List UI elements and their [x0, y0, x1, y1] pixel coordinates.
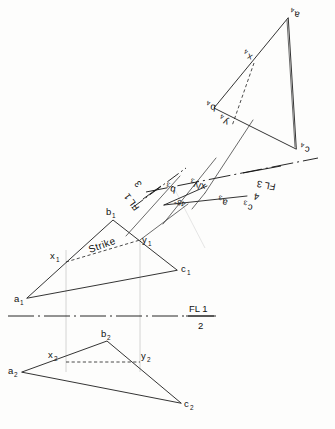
label-a4-index: 4	[290, 7, 295, 14]
label-c4-index: 4	[300, 142, 305, 149]
view1-projector-to-view3	[140, 204, 188, 240]
fold-line-3-4-fraction-bar	[243, 166, 281, 173]
view4-edge-a4-c4	[287, 20, 295, 147]
label-x1-letter: x	[50, 250, 55, 261]
label-b1-index: 1	[112, 212, 116, 219]
label-y1: y 1	[142, 234, 152, 247]
label-y2-letter: y	[141, 350, 146, 361]
label-c1-letter: c	[181, 263, 186, 274]
fold-line-1-3-fraction-bar	[143, 186, 161, 199]
angle-45-label: 45°	[173, 197, 187, 209]
strike-label: Strike	[87, 235, 117, 255]
label-x2-letter: x	[48, 349, 53, 360]
fold-line-3-4-label: FL 3 4	[253, 178, 277, 205]
label-c1-index: 1	[187, 269, 191, 276]
label-b1-letter: b	[106, 206, 111, 217]
label-y1-letter: y	[142, 234, 147, 245]
label-b4: b 4	[205, 100, 217, 114]
label-a3-index: 3	[218, 194, 223, 202]
label-x2: x 2	[48, 349, 58, 362]
label-c3-index: 3	[243, 199, 248, 207]
strike-label-group: Strike	[87, 235, 117, 255]
label-b1: b 1	[106, 206, 116, 219]
label-b2: b 2	[101, 328, 111, 341]
label-a4: a 4	[289, 7, 301, 21]
projector-lines	[66, 190, 205, 372]
label-y4-index: 4	[219, 113, 225, 121]
geometry-svg: FL 1 2 FL 1 3 FL 3 4 Strike 45° a 1	[0, 0, 335, 429]
fold-line-1-2-lower-label: 2	[198, 320, 203, 331]
label-b2-index: 2	[107, 334, 111, 341]
fold-line-1-3-upper-label: FL 1	[121, 191, 141, 213]
label-x1-index: 1	[56, 256, 60, 263]
label-xy3-index: 3	[190, 177, 195, 185]
fold-line-1-2-upper-label: FL 1	[189, 303, 208, 314]
label-x2-index: 2	[54, 355, 58, 362]
label-a2-index: 2	[14, 371, 18, 378]
label-c3: c 3	[242, 199, 254, 214]
label-c2-letter: c	[184, 398, 189, 409]
label-y2-index: 2	[147, 356, 151, 363]
label-a3: a 3	[217, 194, 229, 209]
label-b3-index: 3	[166, 181, 171, 189]
label-c2: c 2	[184, 398, 194, 411]
label-y1-index: 1	[148, 240, 152, 247]
view1-point-labels: a 1 b 1 c 1 x 1 y 1	[14, 206, 191, 306]
view3-to-view4-projector	[205, 120, 253, 193]
view2-point-labels: a 2 b 2 c 2 x 2 y 2	[8, 328, 194, 411]
fold-line-1-3-label: FL 1 3	[119, 179, 154, 213]
label-b3: b 3	[165, 181, 177, 196]
label-b4-index: 4	[206, 100, 211, 107]
fold-line-1-2-label: FL 1 2	[189, 303, 208, 331]
fold-line-1-3-lower-label: 3	[132, 179, 144, 190]
fold-line-3-4-upper-label: FL 3	[256, 178, 276, 192]
view2-triangle	[22, 341, 181, 403]
label-a1: a 1	[14, 293, 24, 306]
label-a2: a 2	[8, 365, 18, 378]
label-y2: y 2	[141, 350, 151, 363]
label-a1-index: 1	[20, 299, 24, 306]
label-c2-index: 2	[190, 404, 194, 411]
technical-drawing-canvas: FL 1 2 FL 1 3 FL 3 4 Strike 45° a 1	[0, 0, 335, 429]
label-x1: x 1	[50, 250, 60, 263]
angle-label-group: 45°	[173, 197, 187, 209]
fold-line-3-4-lower-label: 4	[253, 191, 260, 203]
label-c1: c 1	[181, 263, 191, 276]
label-x4-index: 4	[243, 48, 249, 56]
label-b2-letter: b	[101, 328, 106, 339]
label-xy3: x/y 3	[189, 177, 207, 193]
view2-front-view-triangle	[22, 341, 181, 403]
label-c4: c 4	[299, 142, 311, 156]
